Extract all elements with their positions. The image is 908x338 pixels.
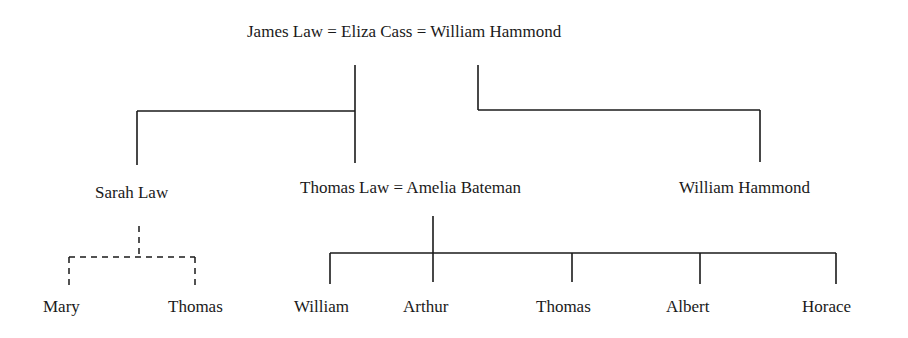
child-horace: Horace xyxy=(802,297,851,317)
child-arthur: Arthur xyxy=(403,297,448,317)
generation1-couple: James Law = Eliza Cass = William Hammond xyxy=(247,22,561,42)
couple-thomas-amelia: Thomas Law = Amelia Bateman xyxy=(300,178,521,198)
child-thomas-sarah: Thomas xyxy=(168,297,223,317)
child-mary: Mary xyxy=(43,297,80,317)
person-william-hammond-jr: William Hammond xyxy=(679,178,810,198)
child-albert: Albert xyxy=(666,297,709,317)
child-william: William xyxy=(294,297,349,317)
person-sarah-law: Sarah Law xyxy=(95,183,168,203)
child-thomas: Thomas xyxy=(536,297,591,317)
tree-connectors xyxy=(0,0,908,338)
